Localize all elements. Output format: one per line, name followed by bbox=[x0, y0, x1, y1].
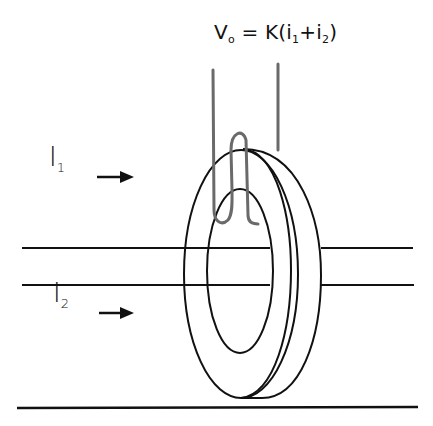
winding-lead-left bbox=[213, 70, 258, 224]
current-arrows bbox=[97, 171, 134, 319]
current-i2-symbol: I bbox=[53, 278, 61, 308]
current-label-i1: I1 bbox=[49, 142, 65, 175]
toroid-core bbox=[184, 149, 321, 398]
right-arrow-icon-i1 bbox=[120, 171, 134, 183]
current-transformer-diagram bbox=[0, 0, 433, 426]
current-label-i2: I2 bbox=[53, 278, 69, 311]
formula-lhs-sub: o bbox=[228, 33, 235, 46]
current-i1-sub: 1 bbox=[57, 160, 65, 175]
formula-plus: + bbox=[299, 20, 316, 44]
right-arrow-icon-i2 bbox=[120, 307, 134, 319]
ground-line bbox=[17, 407, 418, 408]
formula-eq: = K( bbox=[235, 20, 286, 44]
formula-lhs: V bbox=[214, 20, 228, 44]
current-i1-symbol: I bbox=[49, 142, 57, 172]
current-i2-sub: 2 bbox=[61, 296, 69, 311]
toroid-front-inner-ellipse bbox=[207, 189, 273, 353]
formula-close: ) bbox=[329, 20, 337, 44]
output-voltage-formula: Vo = K(i1+i2) bbox=[214, 20, 337, 46]
toroid-front-outer-ellipse bbox=[184, 150, 298, 398]
primary-conductors bbox=[22, 248, 414, 285]
